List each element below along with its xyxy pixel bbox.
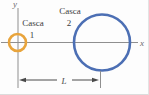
dimension-arrow-right xyxy=(92,78,99,83)
diagram-canvas: y x Casca 1 Casca 2 L xyxy=(0,0,149,95)
shell-2-label-number: 2 xyxy=(67,18,72,28)
dimension-arrow-left xyxy=(19,78,26,83)
dimension-label: L xyxy=(60,76,66,86)
shell-1-label-number: 1 xyxy=(30,30,35,40)
y-axis-label: y xyxy=(12,0,17,9)
x-axis-label: x xyxy=(139,38,144,48)
shells-diagram: y x Casca 1 Casca 2 L xyxy=(0,0,149,95)
shell-2-label-name: Casca xyxy=(59,6,81,16)
shell-1-label-name: Casca xyxy=(22,18,44,28)
